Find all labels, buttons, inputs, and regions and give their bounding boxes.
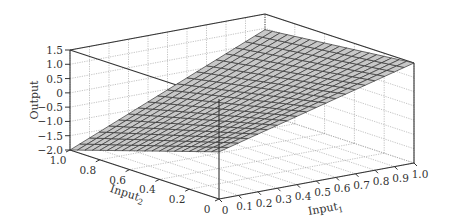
x-tick: [395, 167, 398, 170]
x-tick-label: 0.8: [373, 175, 390, 187]
x-tick: [375, 170, 378, 173]
y-tick: [155, 179, 159, 181]
x-tick: [297, 185, 300, 188]
y-tick: [185, 189, 189, 191]
surface-plot: 1.51.00.50−0.5−1.0−1.5−2.000.10.20.30.40…: [0, 0, 451, 224]
y-tick-label: 0.4: [139, 183, 156, 195]
x-tick-label: 0: [222, 204, 229, 216]
y-tick: [126, 170, 130, 172]
z-tick-label: 1.5: [46, 44, 63, 56]
x-tick-label: 0.9: [392, 172, 409, 184]
x-tick-label: 0.6: [334, 182, 351, 194]
x-tick: [219, 199, 222, 202]
x-tick: [336, 177, 339, 180]
y-tick-label: 0.2: [169, 193, 186, 205]
x-tick: [239, 195, 242, 198]
z-axis-title: Output: [28, 80, 41, 120]
x-tick-label: 0.1: [236, 200, 253, 212]
y-tick-label: 0.8: [79, 164, 96, 176]
z-tick-label: −1.5: [38, 130, 64, 142]
x-tick: [278, 188, 281, 191]
z-tick-label: 0: [56, 87, 63, 99]
z-tick-label: 0.5: [46, 73, 63, 85]
y-tick: [96, 160, 100, 162]
x-tick: [414, 163, 417, 166]
x-tick: [258, 192, 261, 195]
x-tick-label: 0.4: [295, 190, 312, 202]
x-tick-label: 1.0: [412, 168, 429, 180]
x-tick-label: 0.3: [275, 193, 292, 205]
y-tick-label: 1.0: [50, 154, 67, 166]
x-tick: [317, 181, 320, 184]
z-tick-label: −1.0: [38, 115, 64, 127]
x-tick-label: 0.5: [314, 186, 331, 198]
z-tick-label: 1.0: [46, 58, 63, 70]
x-tick-label: 0.2: [256, 197, 273, 209]
x-tick: [356, 174, 359, 177]
surface-mesh: [70, 30, 414, 152]
x-axis-title: Input1: [307, 199, 344, 220]
x-tick-label: 0.7: [353, 179, 370, 191]
z-tick-label: −0.5: [38, 101, 64, 113]
y-tick: [215, 199, 219, 201]
y-tick-label: 0: [204, 203, 211, 215]
